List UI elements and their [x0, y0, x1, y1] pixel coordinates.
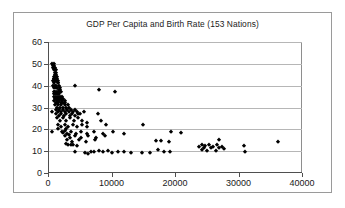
chart-container: GDP Per Capita and Birth Rate (153 Natio… — [13, 12, 332, 193]
x-tick-10000 — [112, 173, 113, 177]
y-tick-60 — [44, 42, 48, 43]
y-tick-label-50: 50 — [32, 59, 42, 69]
x-tick-label-30000: 30000 — [226, 178, 251, 188]
chart-title: GDP Per Capita and Birth Rate (153 Natio… — [14, 19, 331, 29]
y-tick-label-40: 40 — [32, 81, 42, 91]
y-axis-line — [48, 42, 49, 173]
x-tick-label-10000: 10000 — [99, 178, 124, 188]
x-tick-20000 — [175, 173, 176, 177]
gridline-y-50 — [48, 64, 302, 65]
y-tick-20 — [44, 129, 48, 130]
y-tick-10 — [44, 151, 48, 152]
x-tick-label-20000: 20000 — [162, 178, 187, 188]
y-tick-30 — [44, 108, 48, 109]
y-tick-label-10: 10 — [32, 146, 42, 156]
y-tick-label-0: 0 — [37, 168, 42, 178]
gridline-y-30 — [48, 108, 302, 109]
x-tick-label-40000: 40000 — [289, 178, 314, 188]
gridline-y-40 — [48, 86, 302, 87]
plot-area: 0102030405060 010000200003000040000 — [48, 42, 302, 173]
gridline-y-60 — [48, 42, 302, 43]
x-tick-0 — [48, 173, 49, 177]
x-tick-label-0: 0 — [45, 178, 50, 188]
y-tick-label-20: 20 — [32, 124, 42, 134]
x-tick-40000 — [302, 173, 303, 177]
x-tick-30000 — [239, 173, 240, 177]
y-tick-label-60: 60 — [32, 37, 42, 47]
y-tick-50 — [44, 64, 48, 65]
y-tick-40 — [44, 86, 48, 87]
y-tick-label-30: 30 — [32, 103, 42, 113]
